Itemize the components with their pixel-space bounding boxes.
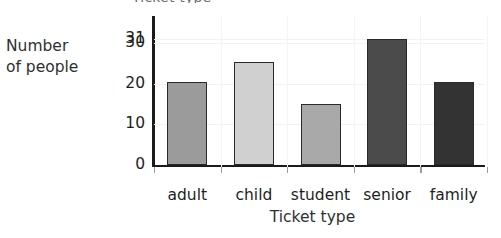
plot-area: 010203031 adultchildstudentseniorfamily	[152, 16, 485, 167]
y-axis-title: Number of people	[6, 36, 118, 78]
x-axis-title: Ticket type	[0, 208, 501, 226]
bar-adult	[167, 82, 207, 165]
gridline	[154, 43, 485, 44]
x-axis-title-text: Ticket type	[270, 208, 355, 226]
y-tick-label: 20	[125, 76, 145, 92]
gridline	[154, 39, 485, 40]
x-tick-mark	[354, 167, 355, 173]
x-tick-label-senior: senior	[363, 188, 411, 204]
y-tick-label: 0	[135, 157, 145, 173]
x-tick-mark	[287, 167, 288, 173]
bar-child	[234, 62, 274, 166]
vertical-gridline	[487, 16, 488, 167]
x-tick-mark	[420, 167, 421, 173]
chart-title-cropped: Ticket type	[132, 0, 372, 3]
x-tick-label-student: student	[291, 188, 350, 204]
bar-chart-figure: Ticket type Number of people 010203031 a…	[0, 0, 501, 238]
vertical-gridline	[354, 16, 355, 167]
x-tick-label-family: family	[430, 188, 478, 204]
x-tick-mark	[487, 167, 488, 173]
bar-family	[434, 82, 474, 165]
vertical-gridline	[420, 16, 421, 167]
y-tick-label: 10	[125, 117, 145, 133]
x-tick-mark	[221, 167, 222, 173]
vertical-gridline	[221, 16, 222, 167]
bar-senior	[367, 39, 407, 165]
vertical-gridline	[287, 16, 288, 167]
bar-student	[301, 104, 341, 165]
y-tick-label: 31	[125, 31, 145, 47]
x-tick-mark	[154, 167, 155, 173]
x-tick-label-adult: adult	[168, 188, 208, 204]
x-tick-label-child: child	[235, 188, 272, 204]
